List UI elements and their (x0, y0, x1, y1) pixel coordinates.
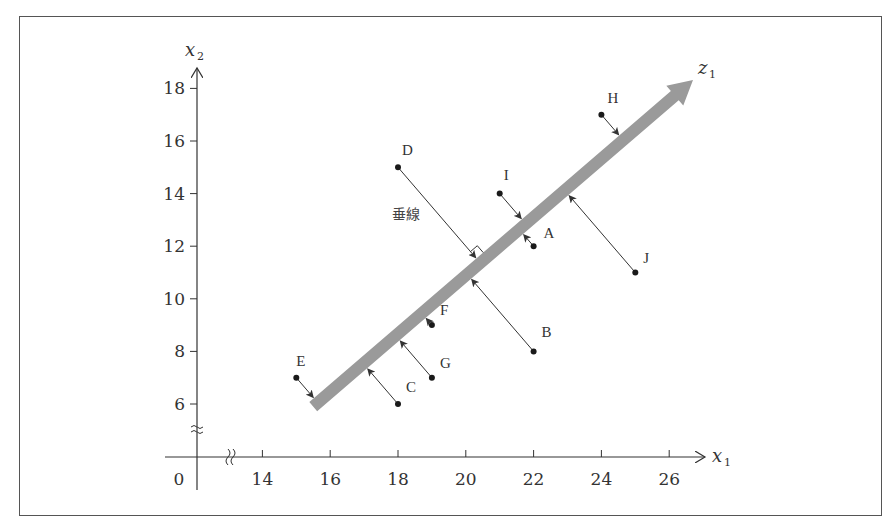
z1-arrow (309, 80, 693, 411)
data-points (293, 112, 638, 407)
point-label-h: H (607, 90, 618, 106)
point-i (497, 191, 503, 197)
projection-line-i (500, 194, 521, 219)
point-label-b: B (542, 324, 552, 340)
z1-subscript: 1 (709, 68, 716, 81)
x-tick-label: 26 (658, 469, 680, 489)
point-h (598, 112, 604, 118)
x-tick-label: 20 (455, 469, 477, 489)
point-label-a: A (544, 225, 555, 241)
point-a (531, 243, 537, 249)
point-label-d: D (402, 142, 413, 158)
point-e (293, 375, 299, 381)
y-tick-label: 16 (163, 131, 185, 151)
y-tick-label: 10 (163, 289, 185, 309)
x2-axis-subscript: 2 (197, 50, 204, 63)
point-label-j: J (643, 250, 649, 266)
principal-axis-z1: z1 (309, 57, 716, 411)
x-tick-label: 16 (319, 469, 341, 489)
projection-line-g (400, 341, 432, 378)
projection-line-e (296, 378, 313, 398)
point-label-i: I (504, 167, 509, 183)
point-label-c: C (406, 379, 416, 395)
y-tick-label: 14 (163, 184, 185, 204)
point-g (429, 375, 435, 381)
point-j (632, 270, 638, 276)
x2-axis-label: x (185, 39, 195, 60)
labels: ABCDEFGHIJ垂線 (296, 90, 649, 395)
point-label-g: G (440, 355, 451, 371)
point-b (531, 348, 537, 354)
x-tick-label: 24 (591, 469, 613, 489)
point-label-f: F (440, 302, 448, 318)
y-tick-label: 6 (174, 394, 185, 414)
x-tick-label: 18 (387, 469, 409, 489)
z1-label: z (697, 57, 708, 78)
x1-axis-subscript: 1 (724, 456, 731, 469)
x-tick-label: 22 (523, 469, 545, 489)
y-tick-label: 18 (163, 78, 185, 98)
point-label-e: E (296, 353, 305, 369)
origin-label: 0 (174, 469, 185, 489)
projection-line-c (368, 369, 398, 404)
perpendicular-lines (296, 115, 635, 404)
projection-line-j (569, 196, 635, 273)
pca-diagram: 141618202224266810121416180x1x2 z1 ABCDE… (0, 0, 885, 532)
right-angle-icon (471, 246, 484, 253)
projection-line-h (601, 115, 618, 135)
perpendicular-label: 垂線 (392, 206, 420, 222)
x-tick-label: 14 (252, 469, 274, 489)
y-tick-label: 8 (174, 341, 185, 361)
projection-line-b (472, 280, 534, 352)
point-c (395, 401, 401, 407)
point-d (395, 164, 401, 170)
y-tick-label: 12 (163, 236, 185, 256)
point-f (429, 322, 435, 328)
x1-axis-label: x (712, 445, 722, 466)
